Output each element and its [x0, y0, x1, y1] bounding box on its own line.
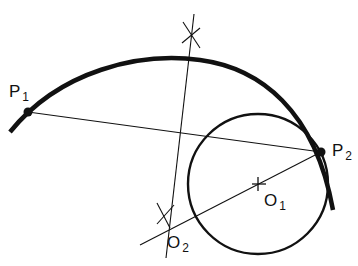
chord-p1-p2: [28, 112, 321, 152]
label-p2-main: P: [332, 141, 343, 160]
label-o2-main: O: [167, 233, 180, 252]
point-p2: [317, 148, 326, 157]
large-arc: [10, 58, 333, 210]
label-p1-main: P: [9, 82, 20, 101]
line-p2-o2: [140, 152, 321, 245]
label-p1-sub: 1: [22, 90, 29, 104]
point-p1: [24, 108, 33, 117]
label-p1: P1: [9, 83, 29, 103]
label-o1: O1: [264, 192, 286, 212]
label-o1-main: O: [264, 191, 277, 210]
label-p2: P2: [332, 142, 352, 162]
label-o1-sub: 1: [279, 199, 286, 213]
label-p2-sub: 2: [345, 149, 352, 163]
geometry-diagram: [0, 0, 358, 266]
label-o2: O2: [167, 234, 189, 254]
center-mark-o1: [252, 177, 266, 191]
perpendicular-bisector: [166, 14, 194, 258]
label-o2-sub: 2: [182, 241, 189, 255]
